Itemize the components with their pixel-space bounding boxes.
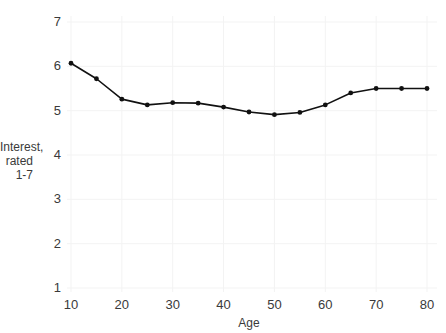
x-tick-label: 60 [305,298,345,311]
data-point [374,86,379,91]
data-point [323,103,328,108]
x-tick-label: 20 [102,298,142,311]
series-line-interest [71,63,427,114]
x-tick-label: 10 [51,298,91,311]
data-point [221,105,226,110]
data-point [272,112,277,117]
vertical-gridlines [71,16,427,292]
plot-area [0,0,446,333]
data-point [119,97,124,102]
data-point [145,103,150,108]
line-chart: 1234567 1020304050607080 Interest, rated… [0,0,446,333]
x-tick-label: 80 [407,298,446,311]
x-tick-label: 70 [356,298,396,311]
data-point [170,100,175,105]
y-tick-label: 6 [39,59,61,72]
y-axis-title-line1: Interest, [0,140,33,154]
x-axis-title: Age [189,316,309,330]
y-tick-label: 3 [39,192,61,205]
data-point [247,110,252,115]
y-axis-title-line2: rated 1-7 [0,154,33,182]
y-tick-label: 2 [39,237,61,250]
y-tick-label: 1 [39,281,61,294]
horizontal-gridlines [67,22,437,288]
data-point [69,61,74,66]
x-tick-label: 40 [204,298,244,311]
data-point [399,86,404,91]
series-markers-interest [69,61,430,117]
data-point [94,76,99,81]
x-tick-label: 30 [153,298,193,311]
y-axis-title: Interest, rated 1-7 [0,140,33,182]
data-point [348,91,353,96]
data-point [297,110,302,115]
y-tick-label: 5 [39,104,61,117]
y-tick-label: 7 [39,15,61,28]
x-tick-label: 50 [254,298,294,311]
data-point [425,86,430,91]
data-point [196,101,201,106]
